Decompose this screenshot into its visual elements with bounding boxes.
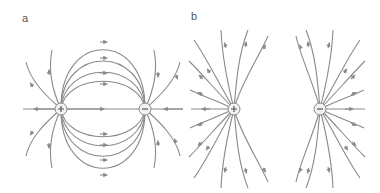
panel-b-charges [189,30,365,188]
negative-charge-b [314,103,326,115]
positive-charge-a [55,103,67,115]
field-lines-diagram [0,0,380,193]
positive-charge-b [228,103,240,115]
panel-a-dipole [23,42,183,175]
negative-charge-a [139,103,151,115]
